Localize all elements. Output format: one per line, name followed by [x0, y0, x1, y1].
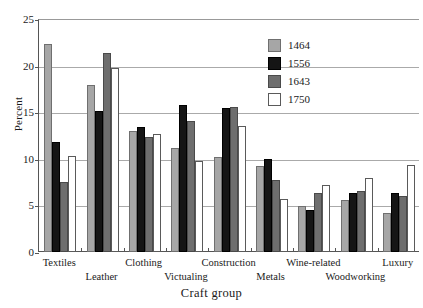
bar — [314, 193, 322, 252]
legend-label: 1643 — [288, 76, 310, 87]
y-axis-tick-label: 0 — [10, 247, 34, 258]
bar — [214, 157, 222, 252]
x-axis-tick-label: Textiles — [43, 258, 76, 269]
bar — [195, 161, 203, 252]
y-axis-tick-label: 10 — [10, 154, 34, 165]
x-axis-tickmark — [251, 248, 252, 252]
y-axis-tickmark — [35, 253, 39, 254]
bar — [95, 111, 103, 252]
bar — [129, 131, 137, 252]
x-axis-title: Craft group — [0, 286, 423, 301]
bar — [365, 178, 373, 252]
legend-label: 1556 — [288, 58, 310, 69]
bar-group — [44, 20, 76, 252]
y-axis-tick-label: 20 — [10, 61, 34, 72]
bar — [68, 156, 76, 252]
bar — [52, 142, 60, 252]
bar — [272, 180, 280, 252]
legend-item: 1643 — [268, 72, 378, 90]
legend-label: 1750 — [288, 94, 310, 105]
bar — [407, 165, 415, 252]
bar — [153, 134, 161, 252]
y-axis-tick-label: 15 — [10, 107, 34, 118]
x-axis-tick-label: Wine-related — [286, 258, 340, 269]
bar-group — [87, 20, 119, 252]
bar — [391, 193, 399, 252]
bar — [187, 121, 195, 252]
y-axis-tick-label: 5 — [10, 200, 34, 211]
legend-label: 1464 — [288, 40, 310, 51]
bar — [103, 53, 111, 252]
bar — [222, 108, 230, 252]
bar — [238, 126, 246, 252]
bar — [60, 182, 68, 252]
bar-chart: Percent 0510152025 TextilesLeatherClothi… — [0, 0, 423, 308]
bar-group — [383, 20, 415, 252]
bar — [399, 196, 407, 252]
legend: 1464155616431750 — [268, 36, 378, 108]
bar — [230, 107, 238, 252]
bar — [145, 137, 153, 252]
bar — [256, 166, 264, 252]
x-axis-tickmark — [124, 248, 125, 252]
bar-group — [214, 20, 246, 252]
x-axis-tick-label: Victualing — [164, 272, 208, 283]
bar — [179, 105, 187, 252]
bar — [111, 68, 119, 252]
bar — [87, 85, 95, 252]
bar — [341, 200, 349, 252]
x-axis-tickmark — [81, 248, 82, 252]
legend-swatch-icon — [268, 93, 281, 106]
legend-item: 1556 — [268, 54, 378, 72]
bar-group — [129, 20, 161, 252]
x-axis-tick-label: Leather — [86, 272, 118, 283]
bar — [306, 210, 314, 252]
x-axis-tick-label: Clothing — [125, 258, 162, 269]
bar-group — [171, 20, 203, 252]
x-axis-tickmark — [293, 248, 294, 252]
bar — [171, 148, 179, 252]
x-axis-tickmark — [335, 248, 336, 252]
bar — [44, 44, 52, 252]
x-axis-tickmark — [208, 248, 209, 252]
bar — [357, 191, 365, 253]
x-axis-tick-label: Luxury — [382, 258, 413, 269]
x-axis-tick-label: Woodworking — [326, 272, 386, 283]
y-axis-tick-labels: 0510152025 — [8, 0, 34, 308]
bar — [264, 159, 272, 252]
bar — [383, 213, 391, 252]
x-axis-tickmark — [166, 248, 167, 252]
legend-swatch-icon — [268, 57, 281, 70]
legend-swatch-icon — [268, 75, 281, 88]
bar — [137, 127, 145, 252]
legend-item: 1464 — [268, 36, 378, 54]
bar — [322, 185, 330, 252]
y-axis-tick-label: 25 — [10, 14, 34, 25]
x-axis-tick-label: Metals — [256, 272, 285, 283]
legend-item: 1750 — [268, 90, 378, 108]
x-axis-tickmark — [378, 248, 379, 252]
x-axis-tick-label: Construction — [202, 258, 256, 269]
bar — [298, 206, 306, 252]
bar — [280, 199, 288, 252]
legend-swatch-icon — [268, 39, 281, 52]
bar — [349, 193, 357, 252]
